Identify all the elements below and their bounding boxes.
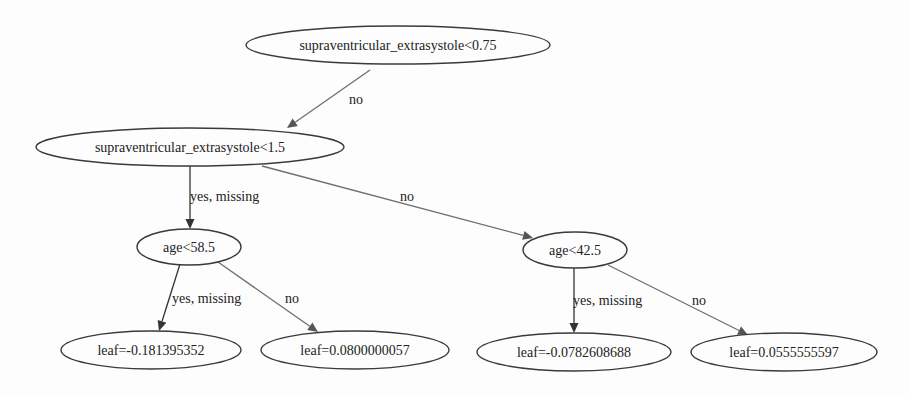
split-node-n3: age<42.5 (523, 232, 627, 268)
leaf-node-n6: leaf=-0.0782608688 (477, 333, 671, 371)
edge-label: yes, missing (190, 189, 259, 204)
tree-edge-n0-n1: no (287, 70, 370, 128)
node-label: leaf=0.0800000057 (300, 343, 409, 358)
node-label: supraventricular_extrasystole<0.75 (299, 38, 496, 53)
node-label: supraventricular_extrasystole<1.5 (95, 140, 285, 155)
arrowhead-icon (287, 119, 298, 128)
split-node-n0: supraventricular_extrasystole<0.75 (246, 26, 550, 64)
leaf-node-n7: leaf=0.0555555597 (691, 333, 877, 371)
leaf-node-n4: leaf=-0.181395352 (61, 331, 241, 369)
split-node-n1: supraventricular_extrasystole<1.5 (36, 128, 344, 166)
edge-line (262, 166, 523, 235)
arrowhead-icon (158, 320, 167, 331)
node-label: leaf=-0.0782608688 (517, 345, 631, 360)
edges-group: noyes, missingnoyes, missingnoyes, missi… (158, 70, 748, 335)
edge-label: no (349, 92, 363, 107)
tree-edge-n2-n4: yes, missing (158, 264, 242, 331)
leaf-node-n5: leaf=0.0800000057 (261, 331, 449, 369)
decision-tree-diagram: noyes, missingnoyes, missingnoyes, missi… (0, 0, 910, 394)
edge-label: yes, missing (172, 291, 241, 306)
arrowhead-icon (307, 323, 318, 332)
edge-label: no (285, 291, 299, 306)
tree-edge-n3-n6: yes, missing (570, 268, 643, 333)
edge-label: no (692, 293, 706, 308)
tree-edge-n1-n2: yes, missing (186, 166, 260, 229)
arrowhead-icon (522, 231, 533, 240)
node-label: age<42.5 (549, 243, 601, 258)
edge-label: no (400, 189, 414, 204)
node-label: leaf=0.0555555597 (729, 345, 838, 360)
arrowhead-icon (570, 323, 579, 333)
node-label: age<58.5 (163, 240, 215, 255)
edge-label: yes, missing (573, 293, 642, 308)
node-label: leaf=-0.181395352 (97, 343, 204, 358)
tree-edge-n1-n3: no (262, 166, 533, 240)
arrowhead-icon (186, 219, 195, 229)
split-node-n2: age<58.5 (137, 229, 241, 265)
